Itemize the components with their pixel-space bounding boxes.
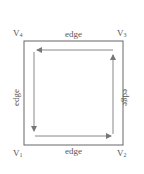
edge-label-left: edge bbox=[12, 89, 21, 106]
vertex-label-v1: V1 bbox=[13, 149, 23, 158]
outer-square bbox=[24, 41, 123, 145]
edge-label-right: edge bbox=[121, 89, 130, 106]
edge-label-top: edge bbox=[65, 30, 82, 39]
cycle-diagram: V4 V3 V1 V2 edge edge edge edge bbox=[0, 0, 144, 174]
vertex-label-v3: V3 bbox=[117, 29, 127, 38]
vertex-label-v2: V2 bbox=[117, 149, 127, 158]
edge-label-bottom: edge bbox=[65, 147, 82, 156]
vertex-label-v4: V4 bbox=[13, 29, 23, 38]
